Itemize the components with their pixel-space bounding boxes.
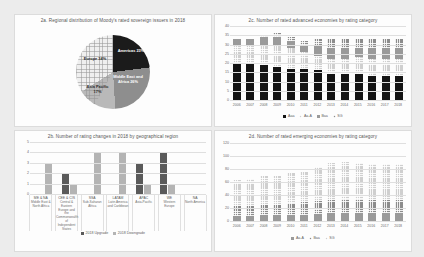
gridline xyxy=(230,54,406,55)
legend-label: Aa-A xyxy=(304,114,312,118)
legend-label: Baa xyxy=(313,236,319,240)
chart-panel-2b: 2b. Number of rating changes in 2018 by … xyxy=(14,130,212,252)
bar-segment-aaa xyxy=(341,74,349,100)
legend-swatch xyxy=(113,232,116,235)
bar-segment-baa xyxy=(327,200,335,214)
bar-segment-aa-a xyxy=(368,59,376,76)
x-axis-categories-2b: ME & NAMiddle East & North AfricaCEE & C… xyxy=(28,195,208,231)
gridline xyxy=(230,72,406,73)
bar-segment-aaa xyxy=(382,76,390,100)
legend-swatch xyxy=(81,232,84,235)
y-tick-label: 80 xyxy=(225,167,229,171)
category-cell: NANorth America xyxy=(184,195,207,231)
x-tick-label: 2018 xyxy=(393,224,404,228)
x-tick-label: 2015 xyxy=(352,224,363,228)
x-tick-label: 2007 xyxy=(245,103,256,107)
gridline xyxy=(230,100,406,101)
chart-title-2a: 2a. Regional distribution of Moody's rat… xyxy=(15,17,211,24)
bar-segment-aa-a xyxy=(287,48,295,68)
pie-label-americas: Americas 23% xyxy=(116,49,146,54)
bar-segment-aaa xyxy=(368,76,376,100)
legend-2c: AaaAa-ABaaSG xyxy=(215,114,411,118)
bar-segment-aa-a xyxy=(355,213,363,221)
bar-segment-aa-a xyxy=(395,213,403,221)
gridline xyxy=(230,91,406,92)
x-tick-label: 2008 xyxy=(258,224,269,228)
pie-label-middle-east-africa: Middle East and Africa 26% xyxy=(112,75,144,84)
gridline xyxy=(230,221,406,222)
x-tick-label: 2012 xyxy=(312,103,323,107)
legend-label: 2018 Downgrade xyxy=(118,231,145,235)
chart-panel-2c: 2c. Number of rated advanced economies b… xyxy=(214,14,412,127)
legend-item-aa-a[interactable]: Aa-A xyxy=(299,114,312,118)
pie-label-europe: Europe 34% xyxy=(82,57,108,62)
gridline xyxy=(230,182,406,183)
y-tick-label: 4 xyxy=(27,150,29,154)
x-tick-label: 2006 xyxy=(231,224,242,228)
bar-group-column xyxy=(34,142,55,194)
y-tick-label: 40 xyxy=(225,193,229,197)
y-tick-label: 60 xyxy=(225,180,229,184)
x-tick-label: 2011 xyxy=(298,103,309,107)
category-cell: CEE & CISCentral & Eastern Europe and th… xyxy=(55,195,78,231)
bar-upgrade xyxy=(136,163,143,194)
x-tick-label: 2016 xyxy=(366,224,377,228)
legend-item-baa[interactable]: Baa xyxy=(309,236,320,240)
x-tick-label: 2007 xyxy=(245,224,256,228)
y-tick-label: 0 xyxy=(227,219,229,223)
bar-downgrade xyxy=(45,163,52,194)
legend-item-2018-downgrade[interactable]: 2018 Downgrade xyxy=(113,231,145,235)
pie-label-asia-pacific: Asia Pacific 17% xyxy=(84,85,111,94)
bar-segment-sg xyxy=(287,173,295,203)
bar-segment-sg xyxy=(300,172,308,203)
legend-item-aa-a[interactable]: Aa-A xyxy=(291,236,304,240)
x-tick-label: 2006 xyxy=(231,103,242,107)
bar-group-column xyxy=(59,142,80,194)
category-full-name: North America xyxy=(185,201,206,205)
legend-item-sg[interactable]: SG xyxy=(333,114,343,118)
chart-panel-2a: 2a. Regional distribution of Moody's rat… xyxy=(14,14,212,127)
bar-segment-sg xyxy=(260,176,268,205)
bar-segment-aaa xyxy=(327,74,335,100)
legend-label: Aaa xyxy=(288,114,294,118)
legend-swatch xyxy=(333,115,336,118)
legend-item-2018-upgrade[interactable]: 2018 Upgrade xyxy=(81,231,108,235)
bar-segment-sg xyxy=(341,162,349,199)
gridline xyxy=(230,143,406,144)
legend-swatch xyxy=(309,237,312,240)
category-full-name: Asia-Pacific xyxy=(133,201,154,205)
bar-group-column xyxy=(83,142,104,194)
legend-item-sg[interactable]: SG xyxy=(325,236,335,240)
gridline xyxy=(230,35,406,36)
legend-label: 2018 Upgrade xyxy=(85,231,108,235)
category-full-name: Middle East & North Africa xyxy=(30,201,51,209)
legend-label: SG xyxy=(329,236,334,240)
gridline xyxy=(30,184,206,185)
legend-swatch xyxy=(283,115,286,118)
y-tick-label: 35 xyxy=(225,33,229,37)
y-axis-2c: 0510152025303540 xyxy=(219,26,230,100)
bar-segment-aaa xyxy=(355,74,363,100)
bar-group-column xyxy=(133,142,154,194)
bar-segment-aa-a xyxy=(395,59,403,76)
x-tick-label: 2016 xyxy=(366,103,377,107)
x-tick-label: 2017 xyxy=(379,224,390,228)
category-cell: SSASub-Saharan Africa xyxy=(81,195,104,231)
bar-segment-baa xyxy=(260,37,268,44)
bar-segment-aaa xyxy=(300,69,308,100)
bar-downgrade xyxy=(70,184,77,194)
bar-segment-aaa xyxy=(395,76,403,100)
bar-segment-baa xyxy=(273,37,281,44)
category-full-name: Western Europe xyxy=(159,201,180,209)
legend-item-baa[interactable]: Baa xyxy=(317,114,328,118)
gridline xyxy=(230,63,406,64)
legend-label: Baa xyxy=(321,114,327,118)
x-tick-label: 2014 xyxy=(339,103,350,107)
bar-segment-baa xyxy=(395,200,403,213)
legend-item-aaa[interactable]: Aaa xyxy=(283,114,294,118)
y-tick-label: 120 xyxy=(223,141,229,145)
x-axis-labels-2c: 2006200720082009201020112012201320142015… xyxy=(230,103,405,107)
bar-group-2b xyxy=(32,142,205,194)
category-cell: LATAMLatin America and Caribbean xyxy=(106,195,129,231)
x-tick-label: 2014 xyxy=(339,224,350,228)
